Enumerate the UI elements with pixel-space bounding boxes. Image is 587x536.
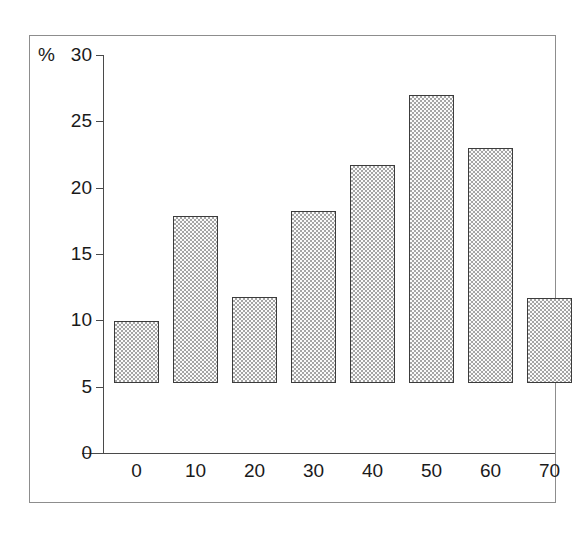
bar (350, 165, 395, 383)
bar (468, 148, 513, 383)
y-axis-tick-label: 25 (30, 111, 92, 130)
x-axis-tick-label: 30 (291, 460, 336, 482)
y-axis-tick-label: 15 (30, 244, 92, 263)
y-axis-tick-label-text: 25 (34, 111, 92, 130)
x-axis-tick-label: 40 (350, 460, 395, 482)
y-axis-tick-label-text: 30 (34, 45, 92, 64)
y-axis-tick (96, 453, 104, 454)
bar (527, 298, 572, 383)
bar (291, 211, 336, 383)
bar (232, 297, 277, 383)
y-axis-tick-label: 10 (30, 310, 92, 329)
x-axis-tick-label: 70 (527, 460, 572, 482)
y-axis-tick (96, 254, 104, 255)
y-axis-tick-label: 5 (30, 377, 92, 396)
y-axis-tick (96, 320, 104, 321)
y-axis-tick-label: 30 (30, 45, 92, 64)
y-axis-tick (96, 387, 104, 388)
bar (173, 216, 218, 383)
y-axis-tick (96, 188, 104, 189)
x-axis-tick-label: 10 (173, 460, 218, 482)
x-axis-tick-label: 0 (114, 460, 159, 482)
y-axis-tick-label: 20 (30, 178, 92, 197)
chart-frame: % 051015202530 010203040506070 Alter (29, 35, 556, 503)
y-axis-tick (96, 121, 104, 122)
x-axis-tick-label: 20 (232, 460, 277, 482)
y-axis-tick-label-text: 10 (34, 310, 92, 329)
plot-area: % 051015202530 010203040506070 Alter (30, 36, 555, 502)
y-axis-tick-label: 0 (30, 443, 92, 462)
x-axis-line (82, 453, 555, 454)
x-axis-tick-label: 50 (409, 460, 454, 482)
bar (409, 95, 454, 383)
y-axis-tick-label-text: 5 (34, 377, 92, 396)
y-axis-tick-label-text: 15 (34, 244, 92, 263)
x-axis-tick-label: 60 (468, 460, 513, 482)
bar (114, 321, 159, 383)
y-axis-tick-label-text: 20 (34, 178, 92, 197)
y-axis-tick-label-text: 0 (34, 443, 92, 462)
y-axis-tick (96, 55, 104, 56)
